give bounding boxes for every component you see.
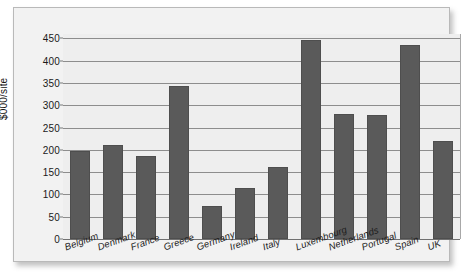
- bar: [70, 151, 90, 239]
- plot-area: [63, 34, 460, 239]
- bar: [367, 115, 387, 239]
- y-tick-label: 350: [43, 78, 60, 89]
- bar: [136, 156, 156, 239]
- y-tick-label: 300: [43, 100, 60, 111]
- bar: [301, 40, 321, 239]
- y-axis-ticks: 050100150200250300350400450: [27, 34, 60, 239]
- bar: [235, 188, 255, 239]
- y-axis-title: $000/site: [0, 78, 9, 120]
- y-tick-label: 200: [43, 144, 60, 155]
- y-tick-label: 250: [43, 122, 60, 133]
- bars-layer: [63, 34, 460, 239]
- y-tick-label: 50: [48, 211, 60, 222]
- chart-figure: $000/site 050100150200250300350400450 Be…: [0, 0, 463, 275]
- bar: [334, 114, 354, 239]
- bar: [400, 45, 420, 239]
- plot-right-border: [460, 34, 461, 239]
- y-tick-label: 450: [43, 33, 60, 44]
- y-tick-label: 100: [43, 189, 60, 200]
- bar: [103, 145, 123, 239]
- bar: [433, 141, 453, 239]
- bar: [169, 86, 189, 239]
- bar: [268, 167, 288, 239]
- chart-panel: $000/site 050100150200250300350400450 Be…: [13, 7, 450, 262]
- y-tick-label: 400: [43, 55, 60, 66]
- y-tick-label: 150: [43, 167, 60, 178]
- x-axis-labels: BelgiumDenmarkFranceGreeceGermanyIreland…: [63, 242, 460, 272]
